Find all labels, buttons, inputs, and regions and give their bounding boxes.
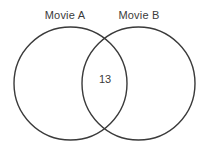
count-intersection: 13 [99,73,111,85]
venn-diagram-canvas: Movie A Movie B 13 [0,0,207,145]
label-movie-b: Movie B [118,9,159,21]
venn-diagram-figure: Movie A Movie B 13 [0,0,207,145]
label-movie-a: Movie A [45,9,86,21]
